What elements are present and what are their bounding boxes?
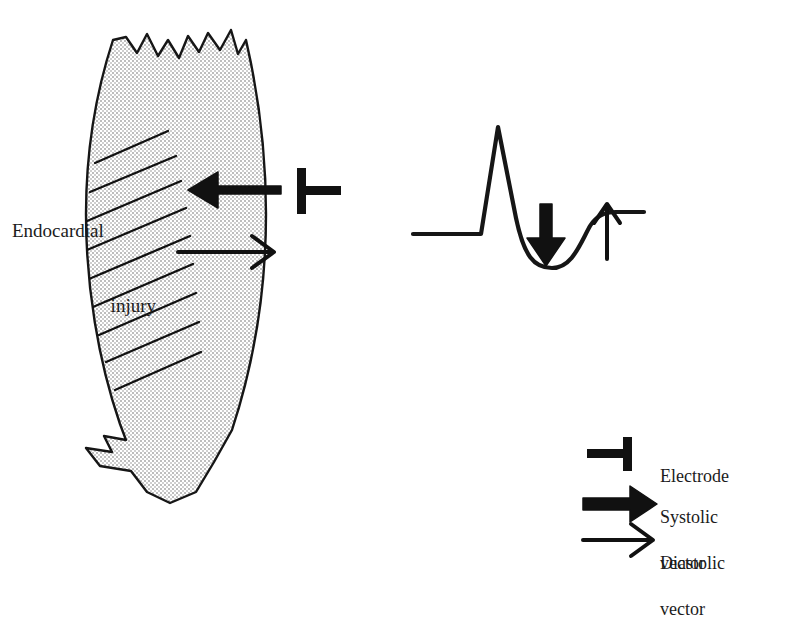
- ecg-systolic-down-arrow: [527, 204, 565, 266]
- electrode-symbol: [297, 168, 341, 214]
- legend-systolic-symbol: [583, 486, 657, 522]
- ecg-waveform: [413, 127, 644, 268]
- vector-legend: [583, 437, 657, 556]
- injury-label-line2: injury: [12, 293, 162, 318]
- endocardial-injury-label: Endocardial injury: [12, 168, 162, 343]
- injury-label-line1: Endocardial: [12, 218, 162, 243]
- ecg-trace: [413, 127, 644, 268]
- legend-diastolic-symbol: [583, 524, 653, 556]
- legend-label-electrode: Electrode: [651, 442, 729, 488]
- legend-electrode-symbol: [587, 437, 632, 471]
- legend-diastolic-text2: vector: [660, 599, 705, 619]
- legend-label-diastolic: Diastolic vector: [651, 529, 725, 619]
- legend-diastolic-text: Diastolic: [660, 553, 725, 573]
- legend-systolic-text: Systolic: [660, 507, 718, 527]
